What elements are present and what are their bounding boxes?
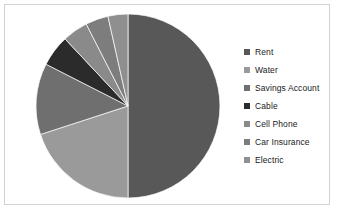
legend-item[interactable]: Electric	[244, 151, 332, 169]
legend-item[interactable]: Water	[244, 61, 332, 79]
legend-swatch-icon	[244, 67, 250, 73]
legend-swatch-icon	[244, 121, 250, 127]
legend-item-label: Rent	[255, 48, 273, 57]
legend-item[interactable]: Car Insurance	[244, 133, 332, 151]
pie-chart[interactable]	[35, 13, 221, 199]
legend-item-label: Water	[255, 66, 278, 75]
legend-swatch-icon	[244, 49, 250, 55]
legend-swatch-icon	[244, 85, 250, 91]
legend-swatch-icon	[244, 157, 250, 163]
legend-item-label: Cell Phone	[255, 120, 298, 129]
pie-slice-group	[36, 14, 220, 198]
chart-legend: RentWaterSavings AccountCableCell PhoneC…	[244, 43, 332, 169]
legend-item-label: Savings Account	[255, 84, 319, 93]
legend-item-label: Cable	[255, 102, 278, 111]
legend-item[interactable]: Cable	[244, 97, 332, 115]
pie-slice[interactable]	[128, 14, 220, 198]
legend-item-label: Car Insurance	[255, 138, 310, 147]
legend-item-label: Electric	[255, 156, 284, 165]
chart-frame: RentWaterSavings AccountCableCell PhoneC…	[4, 4, 330, 205]
legend-item[interactable]: Savings Account	[244, 79, 332, 97]
legend-item[interactable]: Cell Phone	[244, 115, 332, 133]
legend-item[interactable]: Rent	[244, 43, 332, 61]
legend-swatch-icon	[244, 103, 250, 109]
plot-area: RentWaterSavings AccountCableCell PhoneC…	[5, 5, 331, 206]
legend-swatch-icon	[244, 139, 250, 145]
